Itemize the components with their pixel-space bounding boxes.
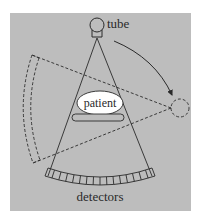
label-patient: patient xyxy=(84,96,117,110)
ct-scanner-diagram: tube patient detectors xyxy=(0,0,202,218)
patient-table xyxy=(72,114,124,121)
label-tube: tube xyxy=(107,16,130,31)
label-detectors: detectors xyxy=(77,189,124,204)
